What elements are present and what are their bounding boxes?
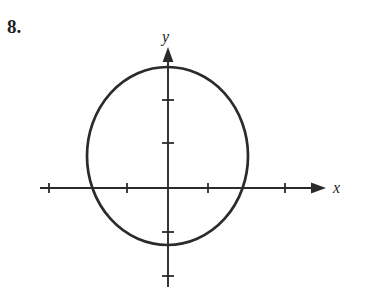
figure-root: 8. x y — [0, 0, 366, 289]
coordinate-plane-graph: x y — [0, 0, 366, 289]
y-axis-label: y — [160, 28, 170, 46]
x-axis-label: x — [332, 179, 340, 196]
x-axis-arrowhead-icon — [311, 183, 326, 194]
y-axis-arrowhead-icon — [163, 47, 174, 62]
